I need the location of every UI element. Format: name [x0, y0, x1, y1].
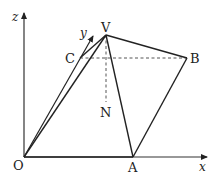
pyramid-diagram: z x y O A B C V N: [0, 0, 215, 178]
edge-AB: [133, 58, 187, 157]
point-label-V: V: [100, 20, 111, 35]
point-label-B: B: [190, 51, 200, 66]
edge-VA: [106, 35, 133, 157]
z-axis-label: z: [11, 10, 19, 24]
point-label-A: A: [127, 160, 138, 175]
point-label-O: O: [13, 158, 24, 173]
point-label-C: C: [65, 51, 75, 66]
y-axis-label: y: [79, 26, 87, 40]
y-axis: [24, 36, 93, 157]
point-label-N: N: [100, 105, 111, 120]
x-axis-label: x: [199, 160, 206, 174]
diagram-canvas: z x y O A B C V N: [0, 0, 215, 178]
edge-BV: [106, 35, 187, 58]
